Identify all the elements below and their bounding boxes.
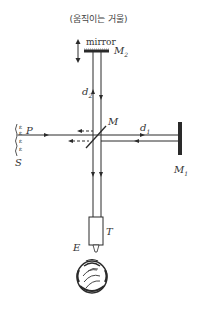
- m1-label-text: M: [174, 164, 184, 175]
- beam-splitter-m: [86, 126, 106, 148]
- wavefront-icon: [16, 124, 18, 156]
- mirror-label: mirror: [86, 38, 116, 47]
- observer-head-icon: [77, 260, 107, 294]
- m2-label-text: M: [114, 45, 124, 56]
- mirror-m1: [178, 122, 182, 155]
- michelson-interferometer-diagram: (움직이는 거울): [0, 0, 197, 310]
- d1-label-sub: 1: [146, 128, 150, 135]
- svg-text:ε: ε: [19, 129, 22, 136]
- beam-splitter-label: M: [108, 117, 118, 127]
- svg-text:ε: ε: [19, 145, 22, 152]
- source-glyphs: ε ε ε ε: [19, 123, 22, 152]
- m2-label: M2: [114, 46, 128, 58]
- telescope-icon: [89, 217, 103, 252]
- e-label: E: [73, 243, 80, 253]
- t-label: T: [106, 227, 113, 237]
- m1-label: M1: [174, 165, 188, 177]
- double-vertical-arrow-icon: [76, 39, 81, 63]
- mirror-m2: [84, 49, 109, 53]
- d2-label-sub: 2: [88, 92, 92, 99]
- m2-label-sub: 2: [124, 51, 128, 58]
- d1-label: d1: [140, 123, 150, 135]
- horizontal-beams: [16, 133, 178, 143]
- d2-label: d2: [82, 87, 92, 99]
- m1-label-sub: 1: [184, 170, 188, 177]
- s-label: S: [15, 158, 22, 168]
- p-label: P: [26, 126, 33, 136]
- dashed-reflected-beams: [68, 129, 93, 143]
- svg-text:ε: ε: [19, 137, 22, 144]
